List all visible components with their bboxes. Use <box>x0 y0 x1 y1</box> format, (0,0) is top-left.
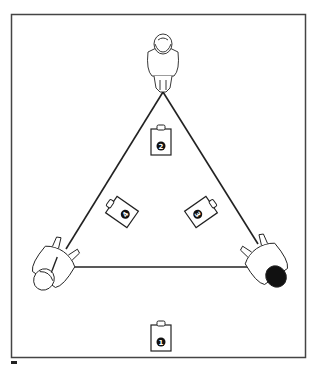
speaker-3: 3 <box>185 194 221 228</box>
speaker-2: 2 <box>151 125 171 155</box>
listener-triangle <box>66 92 258 267</box>
listener-right <box>236 230 298 296</box>
corner-mark <box>11 361 17 364</box>
speaker-layout-diagram: 2 4 3 1 <box>0 0 318 370</box>
speaker-4: 4 <box>102 194 138 228</box>
listener-left <box>23 233 85 299</box>
listener-top <box>148 34 179 92</box>
speaker-2-label: 2 <box>159 143 164 151</box>
speaker-1-label: 1 <box>159 339 164 347</box>
speaker-1: 1 <box>151 321 171 351</box>
